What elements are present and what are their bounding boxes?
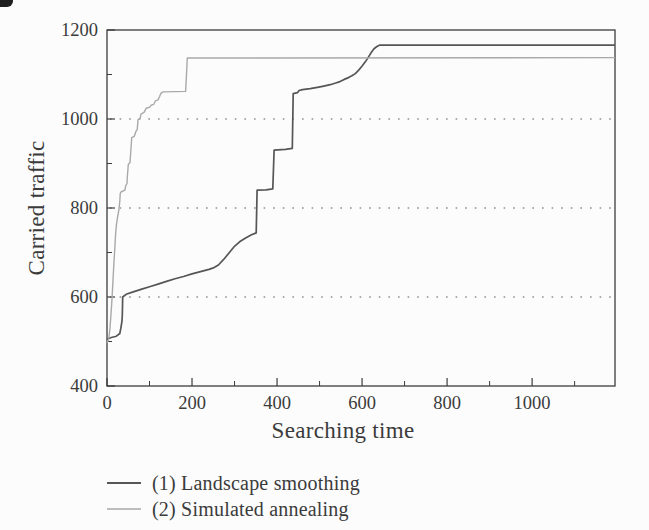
y-tick-label: 800 xyxy=(70,198,98,218)
legend-item: (2) Simulated annealing xyxy=(107,498,349,521)
x-axis-title: Searching time xyxy=(272,418,415,443)
legend-label: (2) Simulated annealing xyxy=(152,498,349,521)
x-tick-label: 0 xyxy=(102,393,111,413)
legend-item: (1) Landscape smoothing xyxy=(107,472,360,495)
series-line-1 xyxy=(107,45,615,339)
figure: Carried traffic Searching time 020040060… xyxy=(0,0,649,530)
plot-area: 0200400600800100040060080010001200 xyxy=(61,20,615,413)
y-tick-label: 600 xyxy=(70,287,98,307)
x-tick-label: 400 xyxy=(263,393,291,413)
y-tick-label: 1000 xyxy=(61,109,98,129)
chart-legend: (1) Landscape smoothing(2) Simulated ann… xyxy=(107,472,360,521)
y-axis-title: Carried traffic xyxy=(24,141,49,276)
x-tick-label: 600 xyxy=(348,393,376,413)
y-tick-label: 1200 xyxy=(61,20,98,40)
y-tick-label: 400 xyxy=(70,376,98,396)
x-tick-label: 200 xyxy=(178,393,206,413)
x-tick-label: 1000 xyxy=(514,393,551,413)
line-chart: Carried traffic Searching time 020040060… xyxy=(0,0,649,530)
series-line-2 xyxy=(107,58,615,343)
legend-label: (1) Landscape smoothing xyxy=(152,472,360,495)
x-tick-label: 800 xyxy=(433,393,461,413)
